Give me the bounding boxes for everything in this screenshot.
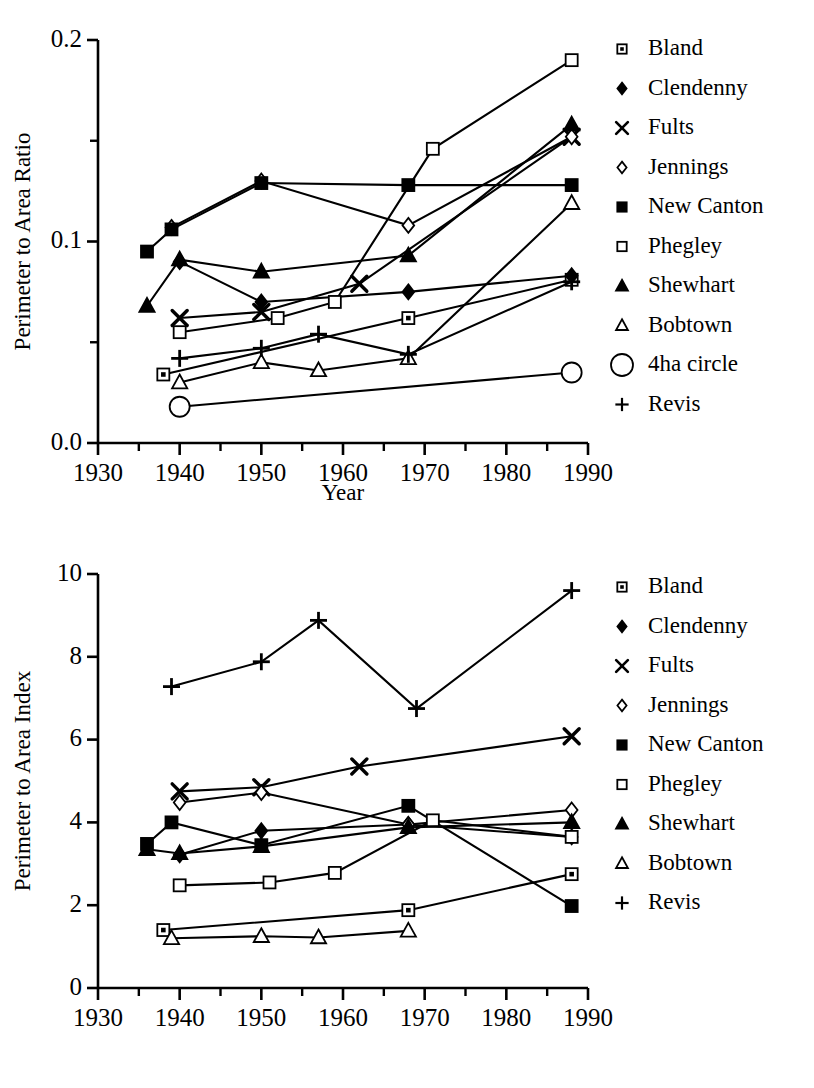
data-point-marker (611, 354, 633, 376)
series-polyline (147, 125, 572, 306)
series-jennings (166, 129, 578, 235)
legend-item[interactable]: Phegley (617, 771, 722, 796)
x-tick-label: 1990 (563, 459, 613, 486)
data-point-marker (427, 143, 439, 155)
legend-item[interactable]: 4ha circle (611, 351, 738, 376)
x-tick-group: 1930194019501960197019801990 (73, 988, 613, 1031)
legend-item[interactable]: New Canton (617, 731, 764, 756)
data-point-marker (616, 319, 628, 330)
y-tick-label: 8 (70, 642, 83, 669)
data-point-marker (253, 653, 270, 670)
legend-item[interactable]: Shewhart (616, 810, 735, 835)
legend-item[interactable]: Bland (617, 35, 703, 60)
legend-label: Fults (648, 114, 694, 139)
series-polyline (180, 372, 572, 406)
y-tick-group: 0.00.10.2 (51, 25, 98, 455)
y-tick-group: 0246810 (57, 559, 98, 1000)
data-point-marker (617, 700, 626, 712)
x-tick-label: 1930 (73, 459, 123, 486)
data-point-marker (564, 814, 579, 828)
legend-item[interactable]: Bobtown (616, 312, 733, 337)
data-point-marker (401, 923, 416, 937)
chart-svg-top: 0.00.10.21930194019501960197019801990Per… (0, 0, 814, 544)
series-polyline (172, 591, 572, 709)
legend-item[interactable]: Revis (615, 889, 700, 914)
legend-item[interactable]: Revis (615, 391, 700, 416)
legend-item[interactable]: Shewhart (616, 272, 735, 297)
legend-item[interactable]: Bland (617, 573, 703, 598)
legend-label: Bobtown (648, 850, 733, 875)
data-point-marker (615, 398, 628, 411)
data-point-marker (402, 284, 414, 299)
data-point-marker (157, 924, 169, 936)
x-tick-label: 1940 (155, 459, 205, 486)
data-point-marker (564, 117, 579, 131)
data-point-marker (566, 868, 578, 880)
y-axis-title: Perimeter to Area Ratio (10, 133, 35, 351)
data-point-marker (615, 896, 628, 909)
legend: BlandClendennyFultsJenningsNew CantonPhe… (615, 573, 764, 914)
data-point-marker (566, 179, 578, 191)
series-polyline (147, 183, 572, 252)
axes: 02468101930194019501960197019801990 (57, 559, 613, 1031)
legend-label: Phegley (648, 233, 723, 258)
legend-label: Jennings (648, 692, 729, 717)
legend-label: Phegley (648, 771, 723, 796)
data-point-marker (402, 218, 414, 233)
legend-item[interactable]: Clendenny (617, 75, 748, 100)
series-polyline (180, 820, 572, 885)
series-clendenny (174, 254, 578, 309)
chart-panel-top: 0.00.10.21930194019501960197019801990Per… (0, 0, 814, 544)
legend-label: Revis (648, 391, 700, 416)
series-new-canton (141, 177, 578, 258)
data-point-marker (617, 780, 626, 789)
series-polyline (172, 931, 409, 938)
data-point-marker (566, 900, 578, 912)
y-axis-title: Perimeter to Area Index (10, 670, 35, 891)
legend-item[interactable]: Jennings (617, 154, 728, 179)
plot-area (139, 582, 580, 944)
data-point-marker (617, 83, 626, 95)
legend-item[interactable]: Phegley (617, 233, 722, 258)
data-point-marker (255, 823, 267, 838)
legend-label: Shewhart (648, 272, 735, 297)
data-point-marker (264, 876, 276, 888)
legend-item[interactable]: New Canton (617, 193, 764, 218)
legend-item[interactable]: Jennings (617, 692, 728, 717)
data-point-marker (352, 276, 367, 291)
data-point-marker (166, 223, 178, 235)
series-polyline (180, 736, 572, 791)
data-point-marker (170, 397, 190, 417)
data-point-marker (562, 362, 582, 382)
legend-item[interactable]: Fults (616, 114, 694, 139)
legend-label: Bland (648, 35, 703, 60)
data-point-marker (329, 296, 341, 308)
data-point-marker (329, 867, 341, 879)
legend-label: New Canton (648, 731, 764, 756)
data-point-marker (616, 857, 628, 868)
data-point-marker (157, 368, 169, 380)
y-tick-label: 6 (70, 724, 83, 751)
x-tick-label: 1980 (481, 1004, 531, 1031)
y-tick-label: 0.1 (51, 226, 82, 253)
legend-item[interactable]: Bobtown (616, 850, 733, 875)
x-tick-label: 1960 (318, 1004, 368, 1031)
data-point-marker (616, 280, 628, 291)
data-point-marker (171, 350, 188, 367)
chart-root: 0.00.10.21930194019501960197019801990Per… (10, 25, 764, 505)
legend-item[interactable]: Clendenny (617, 613, 748, 638)
series-bland (157, 868, 577, 936)
data-point-marker (166, 816, 178, 828)
data-point-marker (617, 44, 626, 53)
series-revis (163, 582, 580, 717)
y-tick-label: 0.2 (51, 25, 82, 52)
legend-label: Bobtown (648, 312, 733, 337)
legend-label: Fults (648, 652, 694, 677)
legend-label: 4ha circle (648, 351, 738, 376)
data-point-marker (566, 831, 578, 843)
data-point-marker (617, 621, 626, 633)
series-fults (172, 129, 579, 325)
y-tick-label: 2 (70, 890, 83, 917)
legend-item[interactable]: Fults (616, 652, 694, 677)
x-tick-label: 1980 (481, 459, 531, 486)
